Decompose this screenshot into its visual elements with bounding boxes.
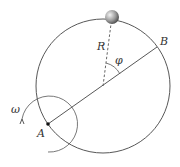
radius-dashed-line — [103, 24, 111, 86]
diagram-canvas — [0, 0, 180, 167]
label-phi: φ — [115, 55, 123, 66]
label-A: A — [37, 128, 45, 139]
diameter-line — [48, 47, 157, 124]
rotating-hoop-diagram: B R φ ω A — [0, 0, 180, 167]
label-R: R — [97, 41, 105, 52]
pivot-point-a — [46, 122, 50, 126]
label-omega: ω — [11, 104, 20, 115]
bead-ball — [105, 10, 119, 24]
label-B: B — [160, 36, 168, 47]
rotation-arrow-icon — [20, 119, 24, 124]
